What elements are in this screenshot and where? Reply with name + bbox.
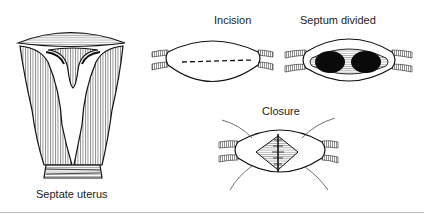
bottom-rule [0,212,424,213]
label-septate-uterus: Septate uterus [36,188,108,200]
closure-illustration [219,118,338,190]
label-closure: Closure [262,105,300,117]
diagram-canvas [0,0,424,215]
septum-divided-illustration [285,39,412,81]
label-incision: Incision [214,14,251,26]
incision-illustration [152,41,273,82]
septate-uterus-illustration [18,33,125,179]
label-septum-divided: Septum divided [300,14,376,26]
